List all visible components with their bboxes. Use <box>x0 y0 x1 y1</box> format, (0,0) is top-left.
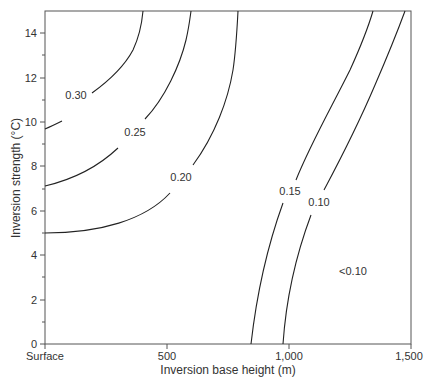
y-tick-label: 0 <box>31 338 37 350</box>
x-axis <box>45 344 411 349</box>
x-tick-label: 1,500 <box>395 350 423 362</box>
contour-label: 0.10 <box>308 196 329 208</box>
x-tick-label: 1,000 <box>275 350 303 362</box>
contour-0-20 <box>193 11 238 165</box>
contour-label: 0.20 <box>170 171 191 183</box>
y-tick-label: 6 <box>31 205 37 217</box>
y-tick-label: 2 <box>31 294 37 306</box>
contour-label: 0.30 <box>65 89 86 101</box>
region-label: <0.10 <box>339 265 367 277</box>
y-tick-label: 8 <box>31 160 37 172</box>
contour-0-30 <box>92 11 143 93</box>
x-tick-label: 500 <box>158 350 176 362</box>
x-tick-label: Surface <box>26 350 64 362</box>
y-tick-labels: 0 2 4 6 8 10 12 14 <box>25 27 37 350</box>
plot-area-frame <box>45 11 411 344</box>
contour-label: 0.25 <box>124 126 145 138</box>
contour-0-20 <box>45 193 170 233</box>
x-axis-label: Inversion base height (m) <box>160 363 295 377</box>
contour-label: 0.15 <box>279 185 300 197</box>
contour-0-15 <box>251 203 283 344</box>
y-tick-label: 14 <box>25 27 37 39</box>
y-axis-label: Inversion strength (°C) <box>9 118 23 238</box>
contour-0-25 <box>45 148 118 186</box>
x-tick-labels: Surface 500 1,000 1,500 <box>26 350 423 362</box>
contour-lines <box>45 11 405 344</box>
contour-0-30 <box>45 121 62 129</box>
contour-0-10 <box>324 11 405 190</box>
contour-chart: 0 2 4 6 8 10 12 14 Surface 500 1,000 1,5… <box>0 0 430 388</box>
contour-0-25 <box>145 11 191 119</box>
y-tick-label: 10 <box>25 116 37 128</box>
contour-labels: 0.30 0.25 0.20 0.15 0.10 <0.10 <box>65 89 367 277</box>
contour-0-10 <box>283 215 311 344</box>
contour-0-15 <box>296 11 373 180</box>
y-axis <box>40 33 45 344</box>
y-tick-label: 4 <box>31 249 37 261</box>
y-tick-label: 12 <box>25 72 37 84</box>
